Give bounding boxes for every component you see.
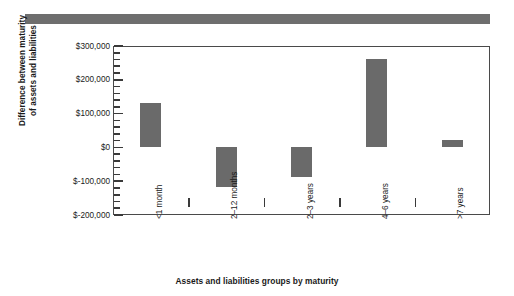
y-axis-minor-tick — [114, 120, 120, 122]
y-axis-minor-tick — [114, 65, 120, 67]
x-axis-category-label: 2–3 years — [306, 129, 315, 219]
y-axis-tick-label: $100,000 — [40, 109, 110, 118]
y-axis-minor-tick — [114, 99, 120, 101]
y-axis-major-tick — [114, 45, 123, 47]
top-rule-bar — [25, 14, 490, 24]
y-axis-minor-tick — [114, 174, 120, 176]
y-axis-minor-tick — [114, 86, 120, 88]
x-axis-category-label: >7 years — [456, 129, 465, 219]
y-axis-minor-tick — [114, 167, 120, 169]
y-axis-major-tick — [114, 79, 123, 81]
y-axis-tick-label: $0 — [40, 143, 110, 152]
y-axis-major-tick — [114, 113, 123, 115]
y-axis-minor-tick — [114, 126, 120, 128]
x-axis-category-label: 4–6 years — [381, 129, 390, 219]
y-axis-minor-tick — [114, 106, 120, 108]
y-axis-title-line1: Difference between maturity — [18, 0, 29, 157]
y-axis-minor-tick — [114, 201, 120, 203]
y-axis-minor-tick — [114, 93, 120, 95]
y-axis-minor-tick — [114, 72, 120, 74]
y-axis-title: Difference between maturity of assets an… — [18, 0, 39, 157]
x-axis-boundary-tick — [188, 198, 190, 207]
y-axis-tick-label: $200,000 — [40, 75, 110, 84]
x-axis-boundary-tick — [415, 198, 417, 207]
x-axis-category-label: 2–12 months — [230, 129, 239, 219]
y-axis-title-line2: of assets and liabilities — [28, 0, 39, 157]
y-axis-tick-label: $300,000 — [40, 42, 110, 51]
chart-figure: Difference between maturity of assets an… — [0, 0, 514, 296]
y-axis-minor-tick — [114, 140, 120, 142]
y-axis-minor-tick — [114, 133, 120, 135]
y-axis-major-tick — [114, 147, 123, 149]
y-axis-tick-label: $-100,000 — [40, 177, 110, 186]
y-axis-minor-tick — [114, 194, 120, 196]
y-axis-minor-tick — [114, 160, 120, 162]
y-axis-minor-tick — [114, 52, 120, 54]
y-axis-minor-tick — [114, 153, 120, 155]
y-axis-minor-tick — [114, 207, 120, 209]
x-axis-category-label: <1 month — [155, 129, 164, 219]
y-axis-major-tick — [114, 214, 123, 216]
x-axis-boundary-tick — [339, 198, 341, 207]
y-axis-minor-tick — [114, 187, 120, 189]
x-axis-boundary-tick — [264, 198, 266, 207]
plot-area — [113, 46, 490, 215]
y-axis-tick-label: $-200,000 — [40, 211, 110, 220]
y-axis-major-tick — [114, 180, 123, 182]
y-axis-minor-tick — [114, 59, 120, 61]
x-axis-title: Assets and liabilities groups by maturit… — [0, 276, 514, 286]
